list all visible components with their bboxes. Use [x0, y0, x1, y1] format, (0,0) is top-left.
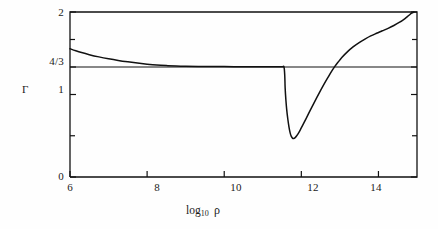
x-tick-label-12: 12 — [301, 181, 325, 193]
x-axis-title-subscript: 10 — [201, 209, 209, 218]
chart-figure: 2 4/3 1 0 Γ 6 8 10 12 14 log10ρ — [0, 0, 438, 229]
x-tick-label-14: 14 — [364, 181, 388, 193]
y-axis-ticks — [70, 12, 417, 177]
y-tick-label-2: 2 — [42, 6, 64, 18]
x-tick-label-8: 8 — [147, 181, 167, 193]
x-axis-title: log10ρ — [186, 203, 220, 218]
y-tick-label-four-thirds: 4/3 — [28, 55, 64, 67]
plot-frame — [70, 12, 417, 177]
data-series-gamma — [70, 12, 414, 138]
y-tick-label-1: 1 — [42, 83, 64, 95]
y-axis-title: Γ — [22, 83, 28, 95]
x-axis-title-base: log — [186, 204, 201, 216]
x-axis-title-variable: ρ — [214, 203, 220, 217]
x-tick-label-6: 6 — [60, 181, 80, 193]
x-axis-ticks — [70, 171, 378, 177]
x-tick-label-10: 10 — [224, 181, 248, 193]
plot-canvas — [0, 0, 438, 229]
